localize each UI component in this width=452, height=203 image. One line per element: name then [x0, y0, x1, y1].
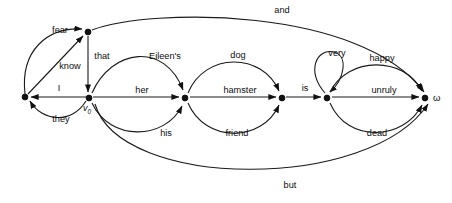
edge-label-is: is [302, 83, 309, 93]
node-left [22, 94, 28, 100]
edge-label-dog: dog [230, 50, 245, 60]
edge-label-unruly: unruly [371, 85, 396, 95]
edge-label-fear: fear [52, 25, 68, 35]
edge-label-friend: friend [226, 128, 249, 138]
word-lattice-diagram: and fear know that Eileen's I her they h… [0, 0, 452, 203]
node-v0 [86, 95, 92, 101]
edge-label-dead: dead [367, 128, 387, 138]
edge-label-i: I [58, 83, 61, 93]
edge-label-they: they [52, 114, 70, 124]
edge-label-hamster: hamster [223, 85, 256, 95]
edge-label-her: her [135, 85, 148, 95]
edge-label-that: that [94, 51, 110, 61]
edge-label-but: but [284, 180, 297, 190]
node-is [324, 95, 330, 101]
node-her [182, 95, 188, 101]
lattice-svg: and fear know that Eileen's I her they h… [0, 0, 452, 203]
node-omega [422, 95, 428, 101]
edge-label-his: his [160, 128, 172, 138]
edge-label-very: very [328, 48, 346, 58]
edge-label-and: and [274, 5, 289, 15]
node-label-v0: v0 [83, 103, 92, 115]
edge-label-eileens: Eileen's [149, 51, 181, 61]
node-label-v0-subscript: 0 [88, 108, 92, 115]
node-top [85, 29, 91, 35]
node-label-omega: ω [433, 92, 441, 103]
edge-label-know: know [59, 61, 81, 71]
edge-label-happy: happy [369, 53, 394, 63]
node-hamster [279, 95, 285, 101]
